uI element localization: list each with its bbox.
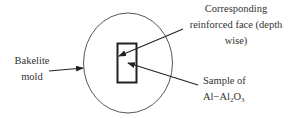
sample-label-line1: Sample of — [203, 76, 246, 86]
bakelite-label-line1: Bakelite — [8, 56, 56, 66]
face-label-line3: wise) — [186, 36, 286, 46]
bakelite-label-line2: mold — [8, 72, 56, 82]
sample-formula-mid: O — [233, 91, 241, 102]
face-label-line1: Corresponding — [186, 4, 286, 14]
sample-label: Sample of Al−Al2O3 — [203, 76, 246, 102]
sample-formula-prefix: Al−Al — [203, 91, 230, 102]
sample-formula-sub2: 3 — [241, 96, 245, 104]
face-label-line2: reinforced face (depth — [186, 20, 286, 30]
sample-label-line2: Al−Al2O3 — [203, 92, 246, 102]
bakelite-mold-label: Bakelite mold — [8, 56, 56, 82]
reinforced-face-label: Corresponding reinforced face (depth wis… — [186, 4, 286, 46]
sample-arrow — [128, 63, 198, 85]
